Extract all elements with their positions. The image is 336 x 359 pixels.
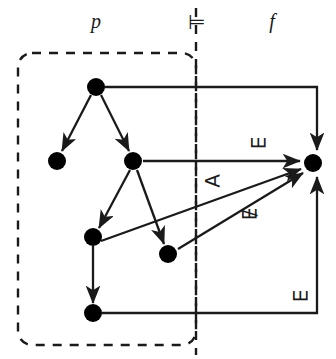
tree-edge-rightchild-lowerright [137,170,164,244]
diagram-canvas: p ⊨ f ∃ ∀ ∄ ∃ [0,0,336,359]
header-label-models: ⊨ [188,10,205,34]
header-label-p: p [91,10,101,33]
edge-label-exists-bottom: ∃ [288,289,312,302]
node-lower-right [159,245,177,263]
edge-label-exists: ∃ [246,136,270,149]
cross-edge-root-to-f-top [105,87,317,150]
edge-label-forall: ∀ [200,174,224,188]
node-f [304,154,322,172]
node-left-child [48,152,66,170]
tree-edge-root-leftchild [62,95,91,151]
edge-label-not-exists: ∄ [237,207,261,220]
diagram-svg [0,0,336,359]
p-region-box [18,53,196,345]
node-root [87,78,105,96]
tree-edge-rightchild-lowerleft [99,170,130,228]
header-label-f: f [269,10,275,33]
node-lower-left [84,228,102,246]
node-right-child [124,152,142,170]
tree-edge-root-rightchild [101,95,129,151]
cross-edge-bottom-to-f [102,177,317,313]
node-bottom [84,304,102,322]
